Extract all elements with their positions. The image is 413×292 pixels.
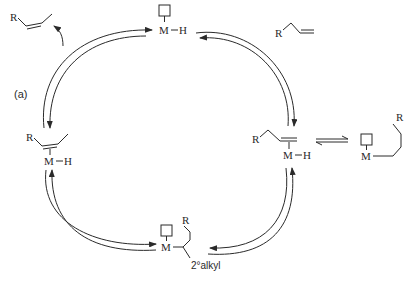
internal-alkene-product: R <box>10 11 52 29</box>
step-label-a: (a) <box>14 88 27 100</box>
hydride-label: H <box>64 155 72 167</box>
vacant-site-icon <box>159 5 170 16</box>
r-group-label: R <box>396 111 404 123</box>
pi-complex-terminal: R M H <box>252 130 311 161</box>
r-group-label: R <box>275 27 283 39</box>
secondary-alkyl-label: 2°alkyl <box>191 260 221 271</box>
metal-label: M <box>161 241 171 253</box>
hydride-label: H <box>179 24 187 36</box>
metal-label: M <box>159 24 169 36</box>
terminal-alkene: R <box>275 23 314 39</box>
metal-hydride-top: M H <box>159 5 187 36</box>
vacant-site-icon <box>161 225 172 236</box>
metal-label: M <box>44 155 54 167</box>
r-group-label: R <box>26 131 34 143</box>
vacant-site-icon <box>361 134 372 145</box>
alkene-isomerization-cycle: R M H R R M H R M H <box>0 0 413 292</box>
arc-top-left <box>43 30 152 128</box>
arc-bottom-right <box>208 168 293 254</box>
metal-label: M <box>361 150 371 162</box>
r-group-label: R <box>10 11 18 23</box>
release-arrow <box>54 26 63 46</box>
secondary-alkyl: M R 2°alkyl <box>161 214 221 271</box>
arc-bottom-left <box>46 170 156 250</box>
pi-complex-internal: R M H <box>26 131 72 167</box>
equilibrium-arrows <box>316 136 348 145</box>
r-group-label: R <box>182 214 190 226</box>
metal-label: M <box>283 149 293 161</box>
r-group-label: R <box>252 133 260 145</box>
arc-top-right <box>196 32 294 126</box>
primary-alkyl: M R <box>361 111 404 162</box>
hydride-label: H <box>303 149 311 161</box>
